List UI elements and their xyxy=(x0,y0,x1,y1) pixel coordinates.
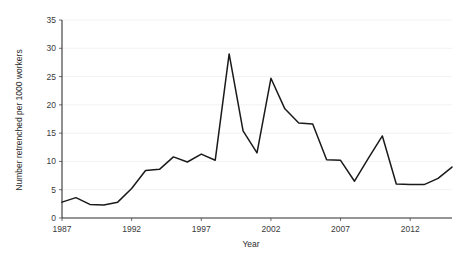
y-tick-label: 10 xyxy=(47,156,57,166)
x-tick-labels-group: 198719921997200220072012 xyxy=(53,224,420,234)
x-tick-label: 1997 xyxy=(192,224,211,234)
x-tick-label: 2007 xyxy=(331,224,350,234)
y-tick-label: 35 xyxy=(47,15,57,25)
y-tick-labels-group: 05101520253035 xyxy=(47,15,57,223)
y-tick-label: 25 xyxy=(47,72,57,82)
y-tick-label: 30 xyxy=(47,43,57,53)
y-tick-label: 5 xyxy=(51,185,56,195)
x-tick-label: 2012 xyxy=(401,224,420,234)
gridlines-group xyxy=(62,20,452,218)
axis-lines-group xyxy=(62,20,452,218)
y-tick-label: 0 xyxy=(51,213,56,223)
y-tick-label: 20 xyxy=(47,100,57,110)
chart-figure: 05101520253035 198719921997200220072012 … xyxy=(0,0,465,258)
x-tick-label: 1992 xyxy=(122,224,141,234)
x-axis-title: Year xyxy=(242,239,259,249)
y-tick-label: 15 xyxy=(47,128,57,138)
line-chart-canvas: 05101520253035 198719921997200220072012 … xyxy=(0,0,465,258)
x-tick-label: 2002 xyxy=(261,224,280,234)
y-axis-title: Number retrenched per 1000 workers xyxy=(14,49,24,190)
tick-marks-group xyxy=(59,20,410,221)
x-tick-label: 1987 xyxy=(53,224,72,234)
